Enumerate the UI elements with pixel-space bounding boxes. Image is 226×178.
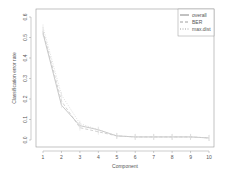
series-max-dist-line: [43, 27, 209, 138]
x-tick-label: 7: [152, 154, 155, 160]
series-BER-line: [43, 31, 209, 138]
y-axis-label: Classification error rate: [11, 52, 17, 104]
x-tick-label: 9: [189, 154, 192, 160]
x-tick-label: 8: [171, 154, 174, 160]
x-tick-label: 10: [206, 154, 212, 160]
y-tick-label: 0.0: [22, 136, 28, 143]
y-tick-label: 0.6: [22, 13, 28, 20]
x-axis: 12345678910: [42, 151, 212, 160]
legend-entry-label: BER: [192, 19, 203, 25]
y-tick-label: 0.1: [22, 116, 28, 123]
legend: overallBERmax.dist: [178, 9, 214, 36]
x-tick-label: 3: [78, 154, 81, 160]
x-axis-label: Component: [112, 163, 138, 169]
x-tick-label: 4: [97, 154, 100, 160]
y-tick-label: 0.5: [22, 34, 28, 41]
legend-entry-label: max.dist: [192, 26, 211, 32]
y-tick-label: 0.3: [22, 75, 28, 82]
series-overall-line: [43, 33, 209, 138]
x-tick-label: 5: [115, 154, 118, 160]
series-lines: [43, 24, 209, 141]
x-tick-label: 2: [60, 154, 63, 160]
y-tick-label: 0.4: [22, 54, 28, 61]
x-tick-label: 1: [42, 154, 45, 160]
y-tick-label: 0.2: [22, 95, 28, 102]
error-rate-chart: 0.00.10.20.30.40.50.6 12345678910 Compon…: [0, 0, 226, 178]
y-axis: 0.00.10.20.30.40.50.6: [22, 13, 31, 143]
legend-entry-label: overall: [192, 12, 207, 18]
x-tick-label: 6: [134, 154, 137, 160]
